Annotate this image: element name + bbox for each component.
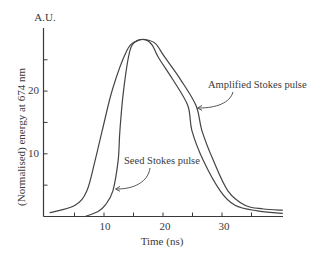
y-unit-label: A.U. bbox=[34, 11, 56, 23]
annotation-amplified: Amplified Stokes pulse bbox=[198, 79, 307, 110]
x-tick-label-10: 10 bbox=[100, 220, 112, 232]
y-tick-label-20: 20 bbox=[28, 84, 40, 96]
amplified-arrow-icon bbox=[199, 92, 233, 108]
y-axis-title: (Normalised) energy at 674 nm bbox=[15, 68, 28, 206]
y-tick-label-10: 10 bbox=[28, 147, 40, 159]
amplified-stokes-pulse-label: Amplified Stokes pulse bbox=[208, 79, 307, 90]
axes bbox=[44, 28, 284, 217]
x-tick-label-20: 20 bbox=[160, 220, 172, 232]
amplified-stokes-pulse-curve bbox=[50, 39, 283, 212]
pulse-energy-chart: 10 20 10 20 30 A.U. (Normalised) energy … bbox=[0, 0, 315, 256]
seed-arrow-icon bbox=[117, 168, 150, 189]
x-tick-label-30: 30 bbox=[219, 220, 231, 232]
seed-stokes-pulse-curve bbox=[85, 39, 283, 216]
annotation-seed: Seed Stokes pulse bbox=[116, 155, 201, 191]
seed-stokes-pulse-label: Seed Stokes pulse bbox=[124, 155, 200, 166]
x-axis-title: Time (ns) bbox=[141, 235, 184, 248]
